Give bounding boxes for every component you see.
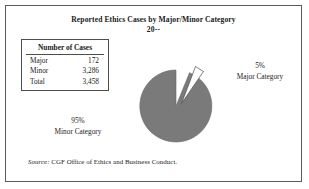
source-prefix: Source: <box>28 158 50 165</box>
number-of-cases-table: Number of Cases Major 172 Minor 3,286 To… <box>21 39 109 91</box>
pie-chart <box>131 59 217 145</box>
table-row: Major 172 <box>22 55 108 66</box>
table-cell-label: Minor <box>30 66 48 76</box>
table-cell-value: 172 <box>88 56 99 66</box>
table-row: Minor 3,286 <box>22 66 108 77</box>
table-row: Total 3,458 <box>22 77 108 88</box>
table-header: Number of Cases <box>26 42 104 55</box>
chart-figure-frame: Reported Ethics Cases by Major/Minor Cat… <box>5 5 302 182</box>
source-text: CGF Office of Ethics and Business Conduc… <box>51 158 177 165</box>
pie-chart-svg <box>131 59 217 145</box>
minor-percent: 95% <box>32 116 124 127</box>
pie-slice-minor-category <box>140 70 212 142</box>
major-label: Major Category <box>218 72 302 83</box>
major-category-callout: 5% Major Category <box>218 61 302 82</box>
source-note: Source: CGF Office of Ethics and Busines… <box>28 158 177 165</box>
major-percent: 5% <box>218 61 302 72</box>
chart-subtitle-year: 20-- <box>6 25 301 34</box>
table-cell-value: 3,458 <box>83 77 99 87</box>
minor-category-callout: 95% Minor Category <box>32 116 124 137</box>
table-cell-value: 3,286 <box>83 66 99 76</box>
minor-label: Minor Category <box>32 127 124 138</box>
table-cell-label: Total <box>30 77 45 87</box>
table-cell-label: Major <box>30 56 48 66</box>
chart-title: Reported Ethics Cases by Major/Minor Cat… <box>6 15 301 24</box>
